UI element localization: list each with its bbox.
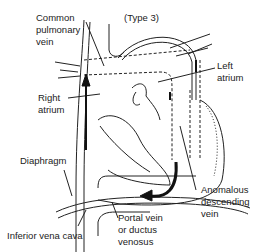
label-right-atrium: Right atrium	[38, 92, 64, 116]
label-anomalous-descending-vein: Anomalous descending vein	[201, 184, 250, 220]
label-inferior-vena-cava: Inferior vena cava	[7, 230, 83, 242]
label-type: (Type 3)	[124, 12, 159, 24]
label-diaphragm: Diaphragm	[20, 155, 66, 167]
tapvr-type3-diagram: Common pulmonary vein (Type 3) Left atri…	[0, 0, 261, 252]
label-common-pulmonary-vein: Common pulmonary vein	[36, 12, 80, 48]
label-left-atrium: Left atrium	[217, 60, 243, 84]
label-portal-vein: Portal vein or ductus venosus	[118, 212, 163, 248]
